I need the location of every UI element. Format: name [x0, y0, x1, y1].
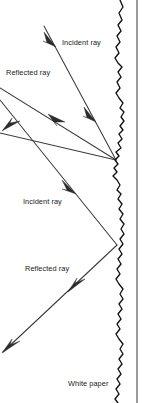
- reflected-ray-1-line: [0, 88, 116, 160]
- arrow-incident-1b-icon: [83, 107, 96, 122]
- arrow-incident-1a-icon: [43, 32, 56, 47]
- arrow-reflected-2b-icon: [2, 339, 20, 353]
- paper-edge-jagged-line: [113, 0, 124, 403]
- label-reflected-ray-1: Reflected ray: [6, 69, 50, 76]
- reflected-ray-1b-line: [0, 133, 116, 160]
- reflected-ray-2-line: [3, 245, 117, 352]
- label-reflected-ray-2: Reflected ray: [25, 265, 69, 272]
- reflection-diagram: Incident ray Reflected ray Incident ray …: [0, 0, 145, 403]
- arrowhead-group: [2, 32, 96, 353]
- diagram-canvas: [0, 0, 145, 403]
- arrow-reflected-2a-icon: [68, 278, 85, 292]
- label-white-paper: White paper: [68, 380, 108, 387]
- arrow-reflected-1b-icon: [2, 118, 20, 131]
- label-incident-ray-1: Incident ray: [62, 39, 101, 46]
- label-incident-ray-2: Incident ray: [23, 198, 62, 205]
- arrow-reflected-1-icon: [48, 114, 65, 126]
- arrow-incident-2-icon: [62, 180, 76, 194]
